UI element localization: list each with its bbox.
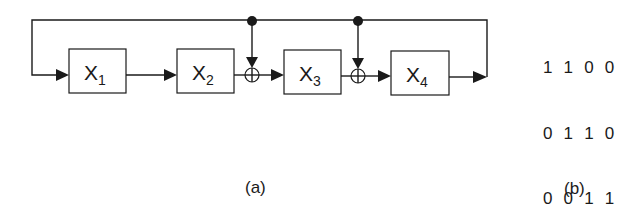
caption-a: (a)	[245, 178, 266, 197]
tap-junction-1	[247, 16, 257, 26]
arrow-into-x2	[164, 69, 177, 81]
arrow-into-x3	[271, 69, 284, 81]
arrow-into-xor2	[352, 58, 364, 69]
arrow-into-x1	[56, 69, 69, 81]
xor-gate-1	[245, 68, 259, 82]
arrow-output	[473, 71, 487, 83]
sequence-row: 0 1 1 0	[543, 123, 617, 145]
arrow-into-xor1	[246, 57, 258, 68]
caption-b: (b)	[564, 179, 585, 199]
arrow-into-x4	[378, 70, 391, 82]
tap-junction-2	[353, 16, 363, 26]
xor-gate-2	[351, 69, 365, 83]
sequence-row: 1 1 0 0	[543, 57, 617, 79]
